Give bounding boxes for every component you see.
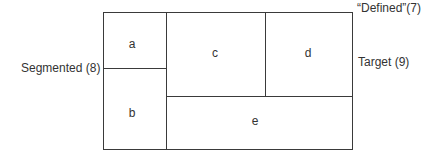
cell-e: e	[252, 114, 259, 128]
cell-b: b	[129, 106, 136, 120]
divider-left-column	[166, 12, 167, 150]
label-target: Target (9)	[358, 55, 409, 69]
cell-c: c	[212, 46, 218, 60]
divider-a-b	[103, 68, 166, 69]
outer-frame	[103, 12, 353, 150]
label-defined: “Defined”(7)	[357, 1, 421, 15]
label-segmented: Segmented (8)	[21, 61, 100, 75]
divider-cd-e	[166, 96, 353, 97]
cell-d: d	[305, 46, 312, 60]
cell-a: a	[129, 37, 136, 51]
divider-c-d	[265, 12, 266, 96]
